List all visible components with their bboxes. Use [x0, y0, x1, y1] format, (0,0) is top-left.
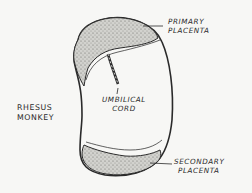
cord-leader-line	[117, 88, 118, 94]
membrane-line	[86, 140, 162, 150]
label-line: RHESUS	[17, 103, 54, 113]
placenta-diagram: PRIMARY PLACENTA UMBILICAL CORD SECONDAR…	[0, 0, 252, 193]
label-line: PLACENTA	[168, 27, 210, 36]
label-line: MONKEY	[17, 113, 54, 123]
primary-placenta-label: PRIMARY PLACENTA	[168, 18, 210, 35]
secondary-placenta-label: SECONDARY PLACENTA	[174, 158, 224, 175]
species-label: RHESUS MONKEY	[17, 103, 54, 123]
label-line: PLACENTA	[174, 167, 224, 176]
label-line: CORD	[96, 105, 152, 114]
umbilical-cord-label: UMBILICAL CORD	[96, 96, 152, 113]
